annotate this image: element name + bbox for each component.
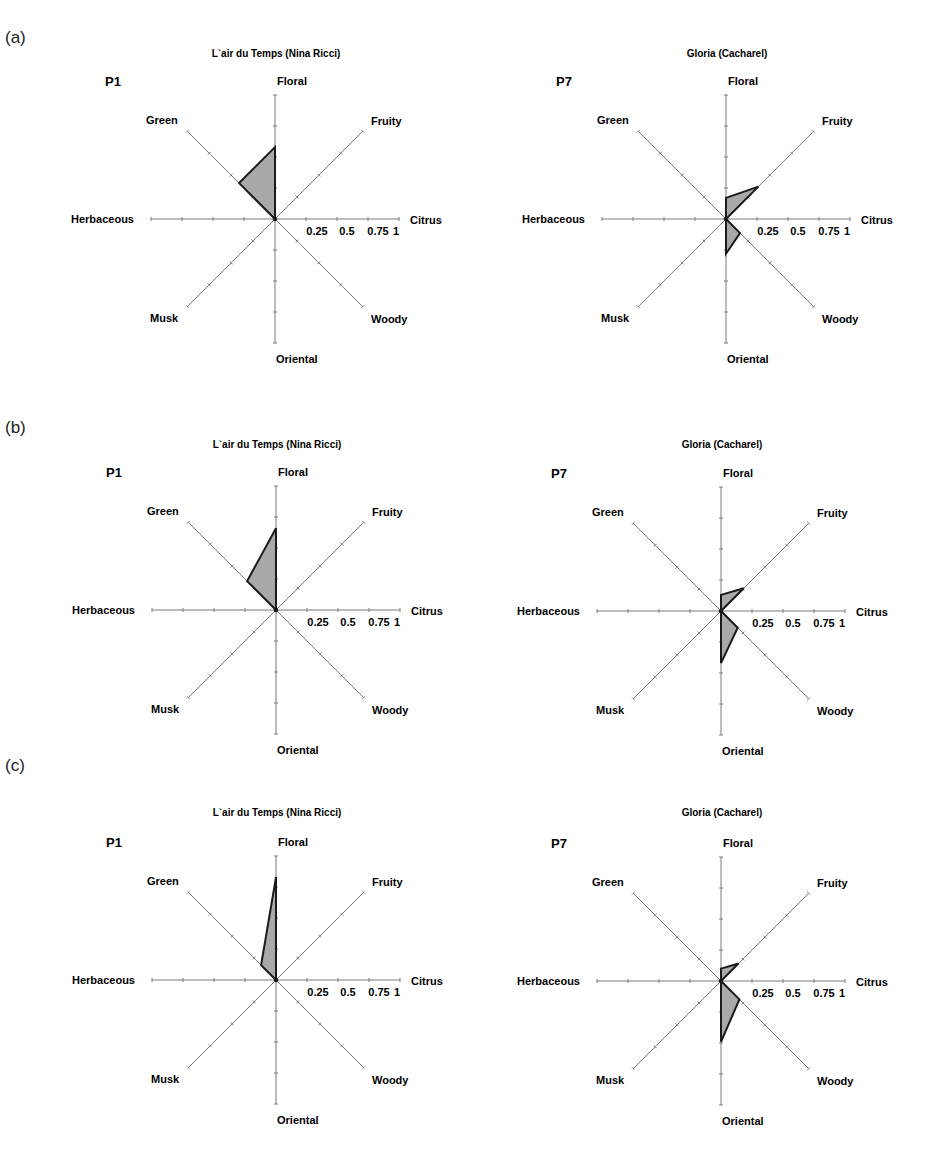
scale-tick-label: 0.5 (340, 616, 355, 628)
axis-label-green: Green (592, 506, 624, 518)
axis-label-musk: Musk (151, 703, 180, 715)
axis-label-woody: Woody (822, 313, 859, 325)
scale-tick-label: 1 (393, 225, 399, 237)
axis-label-herbaceous: Herbaceous (71, 213, 134, 225)
axis-label-herbaceous: Herbaceous (517, 605, 580, 617)
axis-label-herbaceous: Herbaceous (72, 974, 135, 986)
scale-tick-label: 1 (839, 987, 845, 999)
axis-label-floral: Floral (277, 75, 307, 87)
scale-tick-label: 0.25 (307, 986, 328, 998)
participant-label: P1 (106, 465, 122, 480)
center-point (719, 979, 723, 983)
chart-title: L`air du Temps (Nina Ricci) (213, 807, 342, 818)
axis-label-oriental: Oriental (722, 745, 764, 757)
radar-chart: Gloria (Cacharel)P7FloralFruityCitrusWoo… (522, 48, 893, 365)
axis-label-oriental: Oriental (727, 353, 769, 365)
scale-tick-label: 0.75 (813, 617, 834, 629)
axis-label-herbaceous: Herbaceous (72, 604, 135, 616)
axis-label-citrus: Citrus (861, 214, 893, 226)
scale-tick-label: 0.75 (368, 616, 389, 628)
axis-label-woody: Woody (817, 1075, 854, 1087)
scale-tick-label: 0.5 (340, 986, 355, 998)
center-point (274, 608, 278, 612)
axis-label-floral: Floral (728, 75, 758, 87)
axis-label-fruity: Fruity (822, 115, 853, 127)
axis-label-fruity: Fruity (817, 507, 848, 519)
scale-tick-label: 1 (844, 225, 850, 237)
axis-label-green: Green (597, 114, 629, 126)
scale-tick-label: 0.5 (790, 225, 805, 237)
data-polygon (726, 187, 758, 254)
axis-label-citrus: Citrus (410, 214, 442, 226)
scale-tick-label: 0.75 (367, 225, 388, 237)
data-polygon (247, 528, 276, 610)
axis-label-musk: Musk (596, 1074, 625, 1086)
axis-label-floral: Floral (278, 836, 308, 848)
scale-tick-label: 0.5 (785, 987, 800, 999)
axis-label-woody: Woody (371, 313, 408, 325)
scale-tick-label: 0.25 (306, 225, 327, 237)
axis-label-fruity: Fruity (371, 115, 402, 127)
chart-title: L`air du Temps (Nina Ricci) (212, 48, 341, 59)
scale-tick-label: 1 (394, 986, 400, 998)
axis-label-citrus: Citrus (411, 975, 443, 987)
participant-label: P7 (551, 836, 567, 851)
center-point (724, 217, 728, 221)
axis-label-citrus: Citrus (856, 606, 888, 618)
scale-tick-label: 1 (394, 616, 400, 628)
axis-label-oriental: Oriental (722, 1115, 764, 1127)
axis-label-musk: Musk (601, 312, 630, 324)
chart-title: Gloria (Cacharel) (687, 48, 768, 59)
radar-charts-figure: L`air du Temps (Nina Ricci)P1FloralFruit… (0, 0, 927, 1155)
center-point (274, 978, 278, 982)
axis-label-herbaceous: Herbaceous (517, 975, 580, 987)
axis-label-oriental: Oriental (277, 744, 319, 756)
scale-tick-label: 0.25 (752, 987, 773, 999)
scale-tick-label: 0.75 (368, 986, 389, 998)
center-point (273, 217, 277, 221)
scale-tick-label: 0.25 (307, 616, 328, 628)
axis-label-green: Green (146, 114, 178, 126)
data-polygon (239, 147, 275, 219)
axis-label-floral: Floral (723, 837, 753, 849)
axis-label-citrus: Citrus (411, 605, 443, 617)
scale-tick-label: 0.75 (813, 987, 834, 999)
scale-tick-label: 1 (839, 617, 845, 629)
scale-tick-label: 0.5 (339, 225, 354, 237)
chart-title: Gloria (Cacharel) (682, 439, 763, 450)
axis-label-green: Green (147, 505, 179, 517)
data-polygon (261, 877, 276, 980)
axis-label-floral: Floral (723, 467, 753, 479)
radar-chart: Gloria (Cacharel)P7FloralFruityCitrusWoo… (517, 807, 888, 1127)
radar-chart: L`air du Temps (Nina Ricci)P1FloralFruit… (72, 439, 443, 756)
data-polygon (721, 588, 744, 663)
center-point (719, 609, 723, 613)
scale-tick-label: 0.25 (752, 617, 773, 629)
axis-label-fruity: Fruity (372, 506, 403, 518)
participant-label: P1 (106, 835, 122, 850)
chart-title: Gloria (Cacharel) (682, 807, 763, 818)
axis-label-green: Green (592, 876, 624, 888)
axis-label-oriental: Oriental (277, 1114, 319, 1126)
axis-label-woody: Woody (817, 705, 854, 717)
axis-label-green: Green (147, 875, 179, 887)
participant-label: P7 (551, 466, 567, 481)
radar-chart: L`air du Temps (Nina Ricci)P1FloralFruit… (71, 48, 442, 365)
scale-tick-label: 0.25 (757, 225, 778, 237)
chart-title: L`air du Temps (Nina Ricci) (213, 439, 342, 450)
axis-label-fruity: Fruity (817, 877, 848, 889)
axis-label-musk: Musk (150, 312, 179, 324)
axis-label-musk: Musk (596, 704, 625, 716)
axis-label-woody: Woody (372, 704, 409, 716)
participant-label: P1 (105, 74, 121, 89)
radar-chart: L`air du Temps (Nina Ricci)P1FloralFruit… (72, 807, 443, 1126)
scale-tick-label: 0.5 (785, 617, 800, 629)
data-polygon (721, 964, 739, 1042)
axis-label-fruity: Fruity (372, 876, 403, 888)
axis-label-floral: Floral (278, 466, 308, 478)
axis-label-herbaceous: Herbaceous (522, 213, 585, 225)
radar-chart: Gloria (Cacharel)P7FloralFruityCitrusWoo… (517, 439, 888, 757)
axis-label-citrus: Citrus (856, 976, 888, 988)
axis-label-musk: Musk (151, 1073, 180, 1085)
participant-label: P7 (556, 74, 572, 89)
